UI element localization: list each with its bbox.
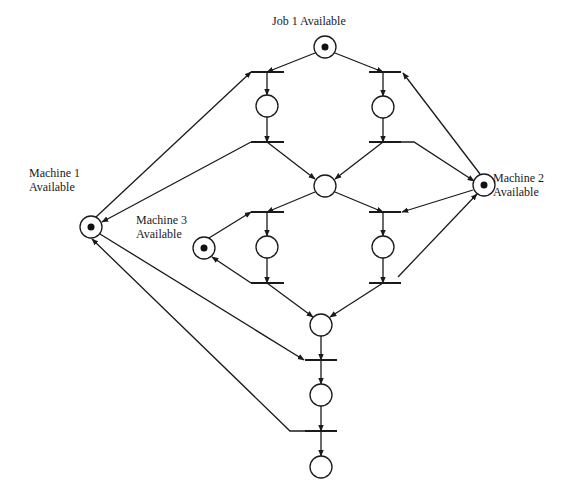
place-circle xyxy=(372,236,394,258)
machine-2-available-place xyxy=(473,174,495,196)
place-circle xyxy=(310,314,332,336)
op2-on-m2-place xyxy=(372,236,394,258)
op1-on-m1-place xyxy=(256,95,278,117)
arc-p_mid-to-t5 xyxy=(267,192,315,212)
machine1-label-line: Available xyxy=(29,180,80,194)
arc-p_m1-to-t1 xyxy=(96,72,251,217)
machine-3-available-place xyxy=(193,237,215,259)
arc-p_m2-to-t2 xyxy=(403,73,480,174)
arc-t3-to-p_m1 xyxy=(102,142,251,222)
place-circle xyxy=(314,175,336,197)
token-icon xyxy=(322,44,329,51)
machine1-label: Machine 1Available xyxy=(29,166,80,194)
arc-t8-to-p_m2 xyxy=(398,194,477,277)
arc-t8-to-p_c xyxy=(330,283,383,317)
places-layer xyxy=(80,36,495,478)
op1-on-m2-place xyxy=(372,96,394,118)
arc-p_job1-to-t1 xyxy=(267,53,315,72)
job1-label: Job 1 Available xyxy=(272,14,346,28)
machine2-label: Machine 2Available xyxy=(493,171,544,199)
arc-t10-to-p_m1 xyxy=(92,239,305,431)
place-circle xyxy=(310,456,332,478)
place-circle xyxy=(310,384,332,406)
petri-net-diagram xyxy=(0,0,580,500)
job-1-available-place xyxy=(314,36,336,58)
arc-t7-to-p_c xyxy=(267,283,313,317)
machine2-label-line: Available xyxy=(493,185,544,199)
arc-p_job1-to-t2 xyxy=(335,53,383,72)
place-circle xyxy=(256,236,278,258)
arc-p_mid-to-t6 xyxy=(335,192,383,212)
token-icon xyxy=(88,224,95,231)
op3-on-m1-place xyxy=(310,384,332,406)
arc-t3-to-p_mid xyxy=(267,142,315,179)
job1-label-line: Job 1 Available xyxy=(272,14,346,28)
machine1-label-line: Machine 1 xyxy=(29,166,80,180)
token-icon xyxy=(201,245,208,252)
op2-done-place xyxy=(310,314,332,336)
arcs-layer xyxy=(92,53,480,456)
arc-t4-to-p_m2 xyxy=(401,142,474,181)
machine2-label-line: Machine 2 xyxy=(493,171,544,185)
place-circle xyxy=(256,95,278,117)
place-circle xyxy=(372,96,394,118)
op2-on-m3-place xyxy=(256,236,278,258)
arc-p_m3-to-t5 xyxy=(209,212,251,238)
machine3-label-line: Machine 3 xyxy=(136,213,187,227)
arc-t7-to-p_m3 xyxy=(212,257,251,283)
machine3-label: Machine 3Available xyxy=(136,213,187,241)
token-icon xyxy=(481,182,488,189)
arc-t4-to-p_mid xyxy=(335,142,383,179)
machine-1-available-place xyxy=(80,216,102,238)
op1-done-place xyxy=(314,175,336,197)
machine3-label-line: Available xyxy=(136,227,187,241)
job-complete-place xyxy=(310,456,332,478)
